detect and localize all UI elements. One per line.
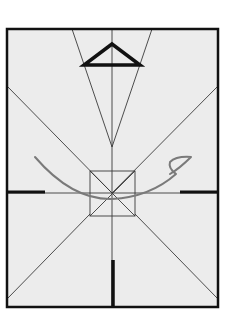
folding-diagram — [0, 0, 232, 327]
